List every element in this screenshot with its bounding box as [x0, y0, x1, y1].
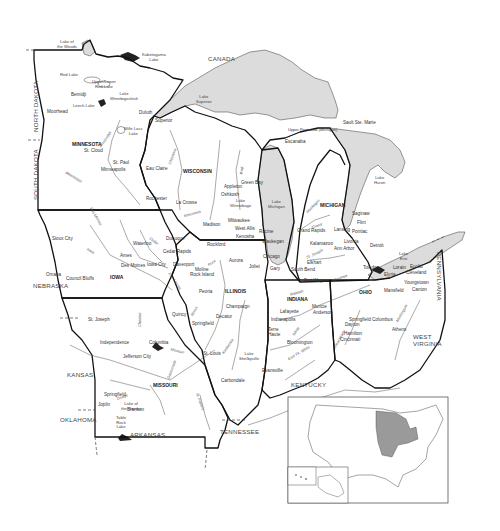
- city-bemidji: Bemidji: [71, 93, 86, 98]
- city-canton: Canton: [412, 288, 427, 293]
- inset-map: [288, 397, 448, 503]
- city-joplin: Joplin: [98, 403, 110, 408]
- city-st-louis: St. Louis: [203, 352, 221, 357]
- city-iowa-city: Iowa City: [147, 263, 166, 268]
- city-gary: Gary: [270, 267, 280, 272]
- city-carbondale: Carbondale: [221, 379, 245, 384]
- label-pennsylvania: PENNSYLVANIA: [436, 252, 442, 301]
- city-chicago: Chicago: [263, 255, 280, 260]
- city-sioux-city: Sioux City: [52, 237, 73, 242]
- label-lake-michigan: Lake Michigan: [268, 200, 285, 209]
- city-lafayette: Lafayette: [280, 310, 299, 315]
- label-iowa: IOWA: [110, 275, 123, 280]
- city-muncie: Muncie: [312, 305, 327, 310]
- label-minnesota: MINNESOTA: [72, 142, 102, 147]
- label-table-rock-lake: Table Rock Lake: [116, 416, 126, 430]
- label-ohio: OHIO: [359, 290, 372, 295]
- city-columbus: Columbus: [372, 318, 393, 323]
- city-youngstown: Youngstown: [404, 281, 429, 286]
- label-kentucky: KENTUCKY: [291, 382, 326, 388]
- city-la-crosse: La Crosse: [176, 201, 197, 206]
- label-upper-peninsula: Upper Peninsula (Michigan): [288, 128, 337, 132]
- label-lake-erie: Lake Erie: [399, 252, 408, 261]
- label-lake-of-the-woods: Lake of the Woods: [57, 40, 77, 49]
- label-arkansas: ARKANSAS: [130, 432, 165, 438]
- city-council-bluffs: Council Bluffs: [66, 277, 94, 282]
- city-ames: Ames: [120, 254, 132, 259]
- city-kalamazoo: Kalamazoo: [310, 242, 333, 247]
- city-appleton: Appleton: [224, 185, 242, 190]
- label-tennessee: TENNESSEE: [220, 429, 259, 435]
- label-canada: CANADA: [208, 56, 235, 62]
- city-ann-arbor: Ann Arbor: [334, 247, 354, 252]
- city-waukegan: Waukegan: [262, 240, 284, 245]
- label-west-virginia: WEST VIRGINIA: [413, 334, 442, 348]
- city-superior: Superior: [155, 119, 172, 124]
- city-anderson: Anderson: [313, 311, 333, 316]
- city-hamilton: Hamilton: [344, 332, 362, 337]
- city-kenosha: Kenosha: [236, 235, 254, 240]
- city-euclid: Euclid: [410, 265, 423, 270]
- city-columbia: Columbia: [149, 341, 168, 346]
- city-joliet: Joliet: [249, 265, 260, 270]
- city-decatur: Decatur: [216, 315, 232, 320]
- label-lake-superior: Lake Superior: [196, 95, 212, 104]
- label-indiana: INDIANA: [287, 297, 308, 302]
- city-dubuque: Dubuque: [166, 237, 185, 242]
- city-flint: Flint: [357, 221, 366, 226]
- city-cleveland: Cleveland: [406, 271, 426, 276]
- city-rock-island: Rock Island: [190, 273, 214, 278]
- river-chariton: Chariton: [139, 313, 143, 327]
- city-mansfield: Mansfield: [384, 289, 404, 294]
- city-madison: Madison: [203, 223, 220, 228]
- city-springfield-il: Springfield: [192, 322, 214, 327]
- city-rochester: Rochester: [146, 197, 167, 202]
- city-sault-ste-marie: Sault Ste. Marie: [343, 121, 376, 126]
- city-duluth: Duluth: [139, 111, 152, 116]
- city-quincy: Quincy: [172, 313, 186, 318]
- city-west-allis: West Allis: [235, 227, 255, 232]
- city-moorhead: Moorhead: [47, 110, 68, 115]
- city-waterloo: Waterloo: [133, 242, 151, 247]
- label-oklahoma: OKLAHOMA: [60, 417, 97, 423]
- city-minneapolis: Minneapolis: [101, 168, 126, 173]
- city-detroit: Detroit: [370, 244, 384, 249]
- city-st-paul: St. Paul: [113, 161, 129, 166]
- label-lake-shelbyville: Lake Shelbyville: [239, 352, 259, 361]
- city-pontiac: Pontiac: [352, 230, 367, 235]
- city-st-cloud: St. Cloud: [84, 149, 103, 154]
- city-racine: Racine: [259, 230, 273, 235]
- label-leech-lake: Leech Lake: [73, 104, 95, 109]
- label-kansas: KANSAS: [67, 372, 93, 378]
- city-green-bay: Green Bay: [241, 181, 263, 186]
- label-missouri: MISSOURI: [153, 383, 178, 388]
- city-escanaba: Escanaba: [285, 140, 305, 145]
- city-toledo: Toledo: [363, 266, 377, 271]
- label-lake-huron: Lake Huron: [374, 176, 385, 185]
- label-north-dakota: NORTH DAKOTA: [33, 81, 39, 132]
- city-milwaukee: Milwaukee: [228, 219, 250, 224]
- city-independence: Independence: [100, 341, 129, 346]
- city-jefferson-city: Jefferson City: [123, 355, 151, 360]
- label-illinois: ILLINOIS: [225, 289, 246, 294]
- city-terre-haute: Terre Haute: [268, 327, 280, 337]
- label-lake-winnibigoshish: Lake Winnibigoshish: [110, 92, 138, 101]
- city-st-joseph: St. Joseph: [88, 318, 110, 323]
- label-red-lake: Red Lake: [60, 73, 78, 78]
- city-lansing: Lansing: [334, 228, 350, 233]
- city-fort-wayne: Fort Wayne: [304, 279, 328, 284]
- label-kabetogama-lake: Kabetogama Lake: [142, 53, 166, 62]
- city-oshkosh: Oshkosh: [221, 193, 239, 198]
- label-michigan: MICHIGAN: [320, 203, 345, 208]
- label-mille-lacs-lake: Mille Lacs Lake: [124, 127, 143, 136]
- label-upper-lower-red-lake: Upper/Lower Red Lake: [92, 80, 116, 89]
- city-dayton: Dayton: [345, 323, 360, 328]
- lake-superior: [154, 50, 338, 120]
- city-rockford: Rockford: [207, 243, 225, 248]
- city-elkhart: Elkhart: [307, 261, 321, 266]
- city-eau-claire: Eau Claire: [146, 167, 167, 172]
- city-cedar-rapids: Cedar Rapids: [163, 250, 191, 255]
- label-wisconsin: WISCONSIN: [183, 169, 212, 174]
- city-south-bend: South Bend: [291, 268, 315, 273]
- city-branson: Branson: [127, 408, 144, 413]
